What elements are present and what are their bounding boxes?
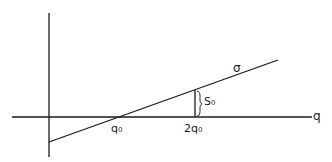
s0-label: S₀ — [204, 95, 216, 108]
s0-brace — [197, 91, 202, 116]
diagram: σ S₀ q q₀ 2q₀ — [0, 0, 332, 162]
sigma-label: σ — [233, 61, 241, 75]
sigma-line — [49, 60, 278, 142]
tick-q0-label: q₀ — [111, 122, 123, 135]
x-axis-label: q — [313, 109, 321, 123]
tick-2q0-label: 2q₀ — [184, 122, 203, 135]
